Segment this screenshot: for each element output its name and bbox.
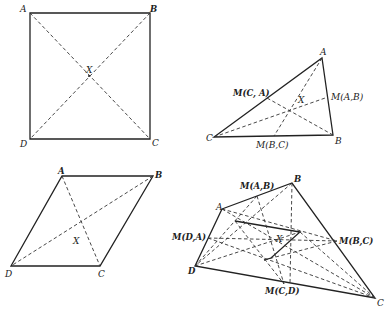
- label-b: B: [149, 4, 157, 14]
- label-m-bc: M(B,C): [338, 236, 373, 247]
- label-a: A: [57, 166, 65, 176]
- label-m-ab: M(A,B): [330, 92, 364, 102]
- label-m-cd: M(C,D): [264, 286, 299, 297]
- label-x: X: [297, 95, 305, 105]
- triangle-figure: A B C X M(C, A) M(A,B) M(B,C): [206, 47, 364, 150]
- square-figure: A B C D X: [19, 4, 159, 149]
- label-a: A: [19, 4, 27, 14]
- varignon-segment: [235, 221, 300, 260]
- geometry-diagram: A B C D X A B C X M(C, A) M(A,B) M(B,C) …: [0, 0, 386, 313]
- label-m-da: M(D,A): [171, 232, 206, 243]
- label-c: C: [152, 138, 159, 148]
- parallelogram-figure: A B C D X: [4, 166, 162, 279]
- label-c: C: [377, 298, 384, 308]
- cline-8: [264, 241, 337, 260]
- label-m-ca: M(C, A): [232, 88, 270, 99]
- diagonal-bd: [195, 183, 292, 266]
- diagonal-bd: [11, 176, 153, 266]
- bimedian-2: [208, 238, 337, 241]
- label-d: D: [19, 139, 27, 149]
- label-c: C: [206, 133, 213, 143]
- diagonal-ac: [62, 176, 100, 266]
- label-d: D: [187, 266, 196, 276]
- label-c: C: [98, 269, 105, 279]
- label-b: B: [154, 170, 162, 180]
- label-a: A: [319, 47, 327, 57]
- label-a: A: [215, 202, 223, 212]
- label-b: B: [293, 174, 301, 184]
- label-x: X: [72, 236, 80, 246]
- median-c: [214, 97, 328, 137]
- label-x: X: [85, 65, 93, 75]
- label-x: X: [275, 234, 283, 244]
- label-m-ab: M(A,B): [239, 181, 274, 192]
- label-b: B: [334, 136, 342, 146]
- label-d: D: [4, 269, 12, 279]
- quadrilateral-figure: A B C D X M(A,B) M(B,C) M(C,D) M(D,A): [171, 174, 384, 308]
- cline-2: [290, 183, 292, 284]
- center-point: [88, 75, 90, 77]
- label-m-bc: M(B,C): [255, 140, 289, 150]
